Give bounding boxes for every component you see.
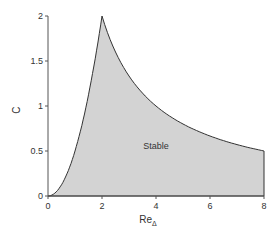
stability-chart: 0246800.511.52 C ReΔ Stable xyxy=(0,0,279,238)
x-tick-label: 2 xyxy=(99,201,104,211)
y-axis-label: C xyxy=(11,106,22,113)
x-axis-label: ReΔ xyxy=(139,214,157,227)
x-tick-label: 4 xyxy=(153,201,158,211)
stable-region xyxy=(48,16,264,196)
y-tick-label: 1 xyxy=(38,101,43,111)
y-tick-label: 1.5 xyxy=(30,56,43,66)
x-tick-label: 8 xyxy=(261,201,266,211)
y-tick-label: 2 xyxy=(38,11,43,21)
x-tick-label: 6 xyxy=(207,201,212,211)
x-tick-label: 0 xyxy=(45,201,50,211)
y-tick-label: 0 xyxy=(38,191,43,201)
stable-annotation: Stable xyxy=(143,141,169,151)
y-tick-label: 0.5 xyxy=(30,146,43,156)
